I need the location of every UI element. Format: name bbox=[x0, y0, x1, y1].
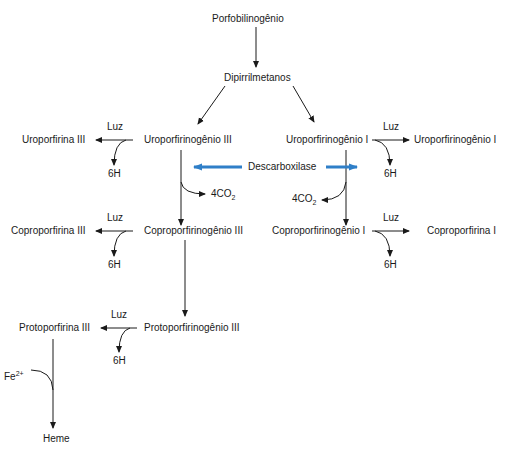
label-luz: Luz bbox=[383, 121, 399, 133]
label-4co2-left: 4CO2 bbox=[211, 188, 235, 204]
arrow-proto-6h bbox=[119, 328, 130, 352]
label-luz: Luz bbox=[107, 212, 123, 224]
node-uroporfirinogenio-i: Uroporfirinogênio I bbox=[286, 134, 368, 146]
arrow-dipirril-to-uro-i bbox=[293, 86, 314, 122]
node-uroporfirinogenio-iii: Uroporfirinogênio III bbox=[144, 134, 232, 146]
label-4co2-right: 4CO2 bbox=[292, 193, 316, 209]
node-uroporfirinogenio-i-right: Uroporfirinogênio I bbox=[414, 134, 496, 146]
label-luz: Luz bbox=[383, 212, 399, 224]
arrow-copro-i-6h bbox=[375, 231, 390, 256]
label-luz: Luz bbox=[107, 121, 123, 133]
label-fe2plus: Fe2+ bbox=[4, 368, 24, 383]
arrow-uro-iii-6h bbox=[114, 140, 126, 165]
node-protoporfirinogenio-iii: Protoporfirinogênio III bbox=[144, 322, 240, 334]
arrow-copro-iii-6h bbox=[114, 231, 126, 256]
node-porfobilinogenio: Porfobilinogênio bbox=[212, 13, 284, 25]
node-uroporfirina-iii: Uroporfirina III bbox=[22, 134, 85, 146]
node-coproporfirina-iii: Coproporfirina III bbox=[11, 225, 85, 237]
arrow-co2-left bbox=[181, 182, 205, 194]
label-6h: 6H bbox=[108, 259, 121, 271]
node-heme: Heme bbox=[43, 433, 70, 445]
label-6h: 6H bbox=[108, 168, 121, 180]
node-protoporfirina-iii: Protoporfirina III bbox=[19, 322, 90, 334]
label-6h: 6H bbox=[384, 168, 397, 180]
arrow-fe-join bbox=[31, 370, 53, 390]
node-dipirrilmetanos: Dipirrilmetanos bbox=[224, 72, 291, 84]
arrow-dipirril-to-uro-iii bbox=[198, 86, 225, 124]
porphyrin-pathway-diagram: Porfobilinogênio Dipirrilmetanos Uroporf… bbox=[0, 0, 505, 451]
label-6h: 6H bbox=[384, 259, 397, 271]
label-6h: 6H bbox=[113, 355, 126, 367]
arrow-co2-right bbox=[322, 182, 346, 200]
label-descarboxilase: Descarboxilase bbox=[248, 161, 316, 173]
node-coproporfirinogenio-iii: Coproporfirinogênio III bbox=[144, 225, 243, 237]
arrow-uro-i-6h bbox=[375, 140, 390, 165]
label-luz: Luz bbox=[111, 309, 127, 321]
node-coproporfirina-i: Coproporfirina I bbox=[427, 225, 496, 237]
node-coproporfirinogenio-i: Coproporfirinogênio I bbox=[272, 225, 365, 237]
